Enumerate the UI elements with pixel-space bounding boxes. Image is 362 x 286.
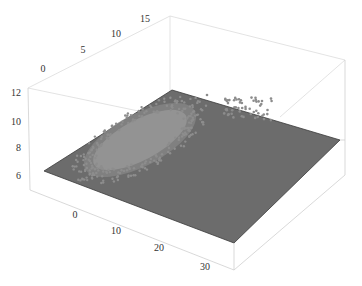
y-tick-5: 5 (81, 44, 86, 55)
x-tick-20: 20 (154, 242, 164, 253)
z-tick-6: 6 (16, 170, 21, 181)
z-tick-10: 10 (11, 116, 21, 127)
z-axis-left: 12 10 8 6 (11, 87, 21, 181)
3d-scatter-plot: 0 5 10 15 12 10 8 6 0 10 20 30 (0, 0, 362, 286)
y-tick-15: 15 (140, 13, 150, 24)
y-tick-0: 0 (41, 63, 46, 74)
x-tick-30: 30 (200, 261, 210, 272)
y-axis-top: 0 5 10 15 (41, 13, 151, 74)
z-tick-12: 12 (11, 87, 21, 98)
y-tick-10: 10 (111, 28, 121, 39)
z-tick-8: 8 (16, 142, 21, 153)
x-tick-10: 10 (111, 225, 121, 236)
x-tick-0: 0 (73, 209, 78, 220)
